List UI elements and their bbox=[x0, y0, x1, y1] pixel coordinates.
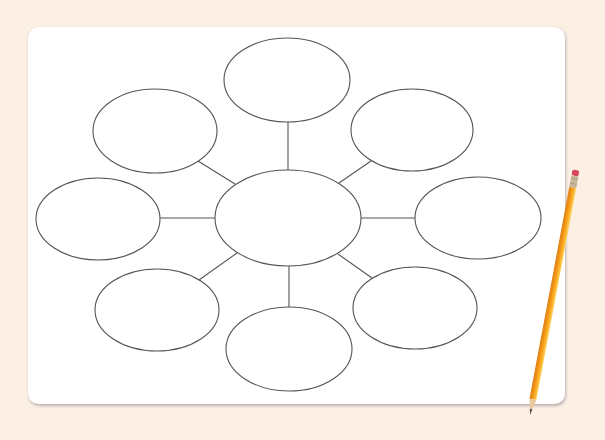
bubble-center bbox=[215, 170, 361, 266]
bubble-right bbox=[415, 177, 541, 259]
bubble-upper-left bbox=[93, 89, 217, 173]
pencil-eraser bbox=[571, 169, 579, 176]
connector-upper-right bbox=[339, 161, 371, 183]
bubble-nodes bbox=[36, 38, 541, 391]
connector-lower-right bbox=[338, 254, 372, 278]
bubble-top bbox=[224, 38, 350, 122]
pencil-ferrule bbox=[569, 175, 578, 188]
bubble-upper-right bbox=[351, 89, 473, 171]
bubble-bottom bbox=[226, 307, 352, 391]
pencil-wood-tip bbox=[527, 399, 537, 416]
connector-lower-left bbox=[199, 253, 237, 280]
bubble-lower-right bbox=[353, 267, 477, 349]
connector-upper-left bbox=[198, 161, 235, 184]
bubble-lower-left bbox=[95, 269, 219, 351]
bubble-map-diagram bbox=[0, 0, 605, 440]
bubble-left bbox=[36, 178, 160, 260]
pencil-lead bbox=[529, 409, 533, 415]
